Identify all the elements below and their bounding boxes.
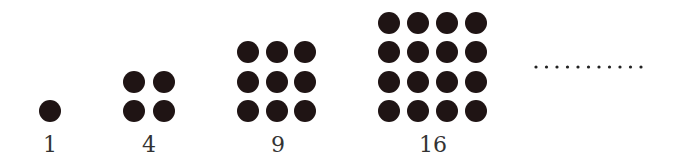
dot xyxy=(237,100,259,122)
dot-pattern-figure: 14916 xyxy=(0,0,674,163)
dot xyxy=(294,100,316,122)
dot xyxy=(294,41,316,63)
dot xyxy=(407,12,429,34)
dot xyxy=(237,41,259,63)
dot xyxy=(123,71,145,93)
ellipsis-dot xyxy=(566,65,569,68)
group-label: 16 xyxy=(419,132,447,157)
dot xyxy=(407,100,429,122)
dot xyxy=(436,12,458,34)
dot xyxy=(153,71,175,93)
dot xyxy=(266,41,288,63)
dot xyxy=(266,71,288,93)
dot xyxy=(465,100,487,122)
dot xyxy=(436,41,458,63)
dot xyxy=(436,71,458,93)
dot xyxy=(378,12,400,34)
dot xyxy=(378,41,400,63)
ellipsis-dot xyxy=(576,65,579,68)
ellipsis-dot xyxy=(618,65,621,68)
dot xyxy=(465,12,487,34)
group-label: 9 xyxy=(271,132,285,157)
dot xyxy=(153,100,175,122)
dot xyxy=(39,100,61,122)
group-label: 1 xyxy=(43,132,57,157)
dot-group-1: 1 xyxy=(39,100,61,157)
dot xyxy=(378,71,400,93)
dot-group-4: 4 xyxy=(123,71,175,157)
dot-group-16: 16 xyxy=(378,12,487,157)
square-numbers-diagram: 14916 xyxy=(0,0,674,163)
dot xyxy=(294,71,316,93)
dot xyxy=(407,41,429,63)
ellipsis-dot xyxy=(608,65,611,68)
group-label: 4 xyxy=(142,132,156,157)
ellipsis-dot xyxy=(555,65,558,68)
ellipsis-dot xyxy=(545,65,548,68)
ellipsis-dot xyxy=(639,65,642,68)
ellipsis-dot xyxy=(597,65,600,68)
dot xyxy=(465,71,487,93)
dot xyxy=(465,41,487,63)
dot xyxy=(123,100,145,122)
continuation-ellipsis xyxy=(534,65,642,68)
dot xyxy=(378,100,400,122)
dot-group-9: 9 xyxy=(237,41,316,157)
ellipsis-dot xyxy=(629,65,632,68)
dot xyxy=(407,71,429,93)
dot xyxy=(436,100,458,122)
dot xyxy=(237,71,259,93)
ellipsis-dot xyxy=(587,65,590,68)
ellipsis-dot xyxy=(534,65,537,68)
dot xyxy=(266,100,288,122)
